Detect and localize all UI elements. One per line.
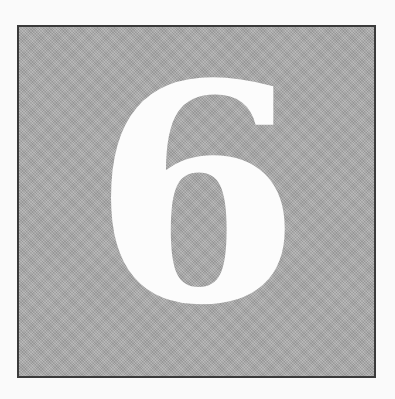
page: 6 bbox=[0, 0, 395, 399]
chapter-number-box: 6 bbox=[17, 25, 376, 378]
chapter-number: 6 bbox=[19, 27, 374, 376]
